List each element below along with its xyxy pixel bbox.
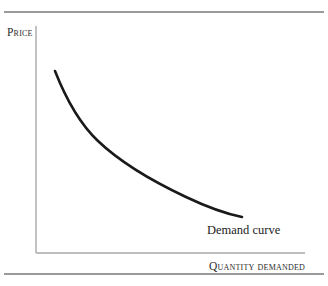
x-axis-label: Quantity demanded [209,261,305,273]
y-axis-label: Price [7,27,33,39]
demand-curve-line [55,71,242,217]
demand-curve-annotation: Demand curve [207,224,280,237]
demand-curve-figure: Price Quantity demanded Demand curve [0,0,328,286]
bottom-rule [4,273,324,275]
plot-area [0,0,328,286]
